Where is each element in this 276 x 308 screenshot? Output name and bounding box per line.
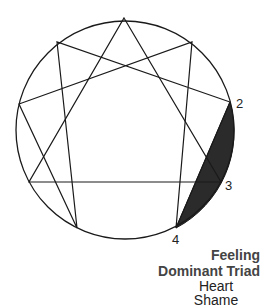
triad-title-line1: Feeling — [211, 247, 260, 263]
point-4-label: 4 — [172, 232, 179, 247]
point-2-label: 2 — [236, 96, 243, 111]
triad-title-line2: Dominant Triad — [158, 263, 260, 279]
point-3-label: 3 — [225, 178, 232, 193]
emotion-label: Shame — [190, 292, 242, 308]
